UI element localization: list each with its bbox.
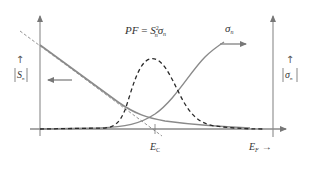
left-axis-up-arrow: ↑	[16, 54, 24, 65]
left-axis-label: Sn	[15, 68, 27, 82]
conductivity-curve	[40, 42, 224, 129]
right-axis-up-arrow: ↑	[286, 54, 294, 65]
ef-label: EF→	[248, 141, 272, 153]
thermoelectric-diagram: PF = S2nσn σn ↑ Sn ↑ σn EC EF→	[0, 0, 310, 182]
ec-label: EC	[149, 141, 160, 153]
svg-text:σn: σn	[285, 69, 293, 81]
right-axis-label: σn	[283, 68, 297, 82]
pf-formula: PF = S2nσn	[124, 24, 166, 38]
sigma-curve-label: σn	[225, 22, 233, 35]
svg-text:Sn: Sn	[17, 69, 25, 81]
seebeck-curve	[40, 45, 250, 128]
